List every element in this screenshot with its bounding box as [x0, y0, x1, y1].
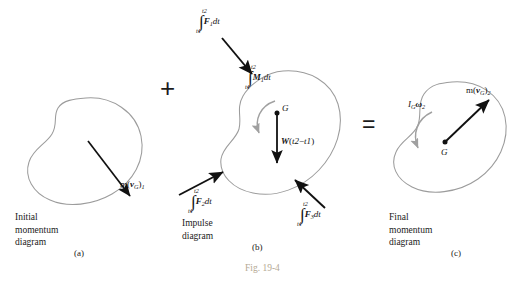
integral-F1-upper-limit: t2 [202, 8, 207, 14]
body-outline-impulse [221, 71, 341, 194]
integral-F2-lower-limit: t1 [188, 208, 193, 214]
operator-equals: = [362, 111, 375, 138]
differential-F1: dt [213, 16, 220, 26]
sub-index-omega: 2 [422, 103, 425, 110]
label-m-final: m [466, 85, 473, 95]
label-linear-momentum-final: m(vG)2 [466, 86, 491, 95]
sub-state-final: 2 [487, 89, 490, 96]
vector-symbol-W: W [281, 136, 289, 146]
caption-impulse: Impulse diagram [182, 217, 213, 242]
vector-impulse-force-3 [295, 180, 325, 208]
integral-F3-lower-limit: t1 [297, 221, 302, 227]
curved-arrow-angular-impulse [257, 101, 275, 133]
integral-M1: t2∫t1 [248, 69, 253, 86]
caption-impulse-line-2: diagram [182, 230, 213, 243]
integral-M1-upper-limit: t2 [251, 64, 256, 70]
sub-state-initial: 1 [141, 183, 144, 190]
integral-M1-lower-limit: t1 [245, 84, 250, 90]
label-linear-momentum-initial: m(vG)1 [120, 180, 145, 189]
part-label-c: (c) [451, 248, 461, 258]
caption-final-line-3: diagram [389, 236, 432, 249]
figure-graphics-layer [0, 0, 529, 290]
integral-F2-upper-limit: t2 [194, 188, 199, 194]
differential-F3: dt [314, 209, 321, 219]
integral-F1: t2∫t1 [199, 13, 204, 30]
integral-F1-lower-limit: t1 [196, 28, 201, 34]
figure-number-caption: Fig. 19-4 [245, 263, 280, 273]
label-m-initial: m [120, 179, 127, 189]
paren-close-W: ) [311, 136, 314, 146]
label-angular-momentum-final: IGω2 [408, 100, 425, 109]
curved-arrow-angular-momentum [416, 112, 432, 148]
label-angular-impulse-moment: t2∫t1M1dt [248, 69, 271, 86]
label-impulse-force-1: t2∫t1F1dt [199, 13, 220, 30]
label-center-of-mass-final: G [441, 148, 448, 157]
caption-final-line-2: momentum [389, 224, 432, 237]
integral-F3-upper-limit: t2 [303, 201, 308, 207]
label-impulse-force-2: t2∫t1F2dt [191, 193, 212, 210]
caption-final-line-1: Final [389, 211, 432, 224]
integral-F2: t2∫t1 [191, 193, 196, 210]
caption-initial-line-1: Initial [15, 211, 58, 224]
part-label-a: (a) [74, 248, 84, 258]
vector-linear-momentum-final [445, 100, 489, 142]
caption-impulse-line-1: Impulse [182, 217, 213, 230]
label-center-of-mass-impulse: G [282, 104, 289, 113]
caption-initial-line-3: diagram [15, 236, 58, 249]
caption-initial-momentum: Initial momentum diagram [15, 211, 58, 249]
caption-final-momentum: Final momentum diagram [389, 211, 432, 249]
operator-plus: + [160, 73, 175, 104]
figure-19-4: + = m(vG)1 Initial momentum diagram (a) … [0, 0, 529, 290]
differential-M1: dt [264, 72, 271, 82]
integral-F3: t2∫t1 [300, 206, 305, 223]
t-upper-W: t2 [292, 136, 299, 146]
part-label-b: (b) [252, 242, 263, 252]
differential-F2: dt [205, 196, 212, 206]
label-impulse-force-3: t2∫t1F3dt [300, 206, 321, 223]
vector-symbol-M1: M [253, 72, 261, 82]
label-weight-impulse: W(t2−t1) [281, 137, 314, 146]
caption-initial-line-2: momentum [15, 224, 58, 237]
vector-impulse-force-2 [179, 172, 223, 195]
